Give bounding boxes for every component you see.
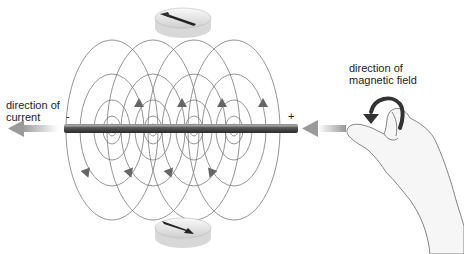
compass-bottom-icon <box>155 218 211 248</box>
current-direction-label: direction of current <box>6 99 60 123</box>
magnetic-field-label: direction of magnetic field <box>349 62 417 86</box>
field-arrows-down <box>81 168 218 180</box>
right-hand-icon <box>347 108 464 254</box>
compass-top-icon <box>155 8 211 38</box>
field-label-line1: direction of <box>349 62 417 74</box>
field-label-line2: magnetic field <box>349 74 417 86</box>
current-label-line2: current <box>6 111 60 123</box>
diagram-canvas <box>0 0 464 254</box>
current-arrow-right <box>302 120 346 137</box>
minus-sign: - <box>66 110 70 122</box>
current-label-line1: direction of <box>6 99 60 111</box>
plus-sign: + <box>288 110 294 122</box>
